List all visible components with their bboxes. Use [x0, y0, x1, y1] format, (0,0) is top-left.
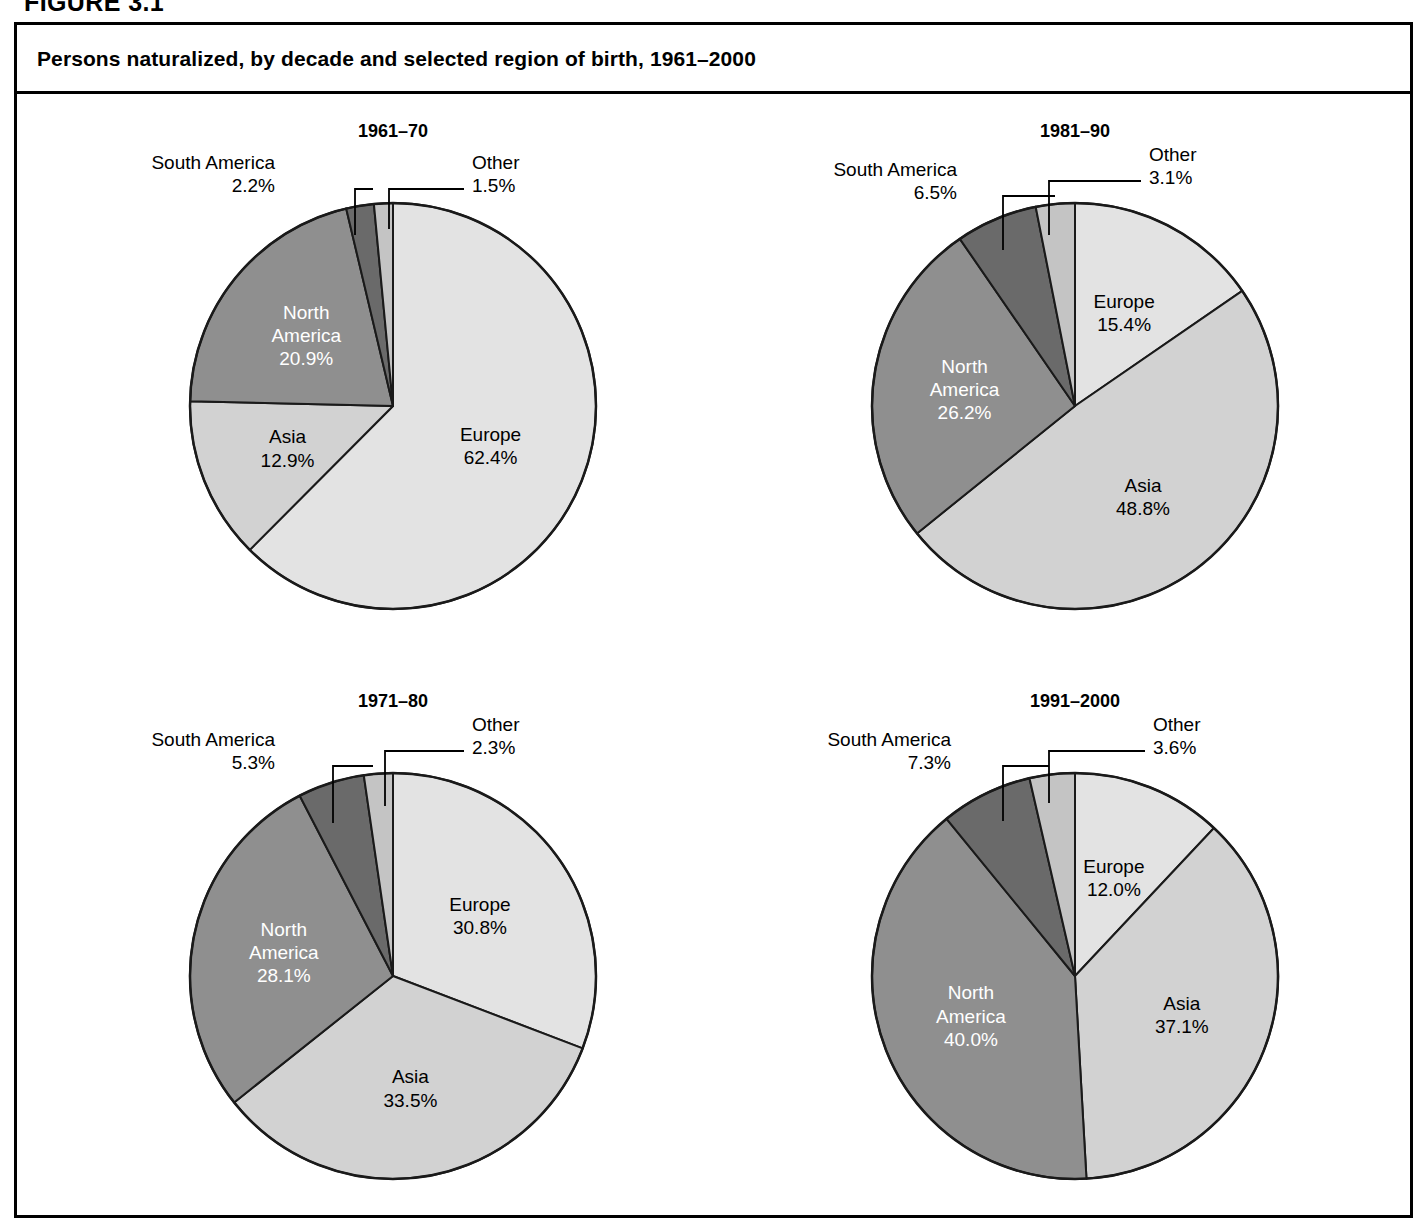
pie-slice-label-north-america: NorthAmerica40.0%: [936, 982, 1006, 1052]
pie-slice-label-name: Europe: [1083, 855, 1144, 878]
other-leader-line: [1049, 751, 1145, 803]
pie-slice-label-name: North: [936, 982, 1006, 1005]
south-america-callout: South America7.3%: [761, 728, 951, 774]
pie-slice-label-asia: Asia37.1%: [1155, 992, 1209, 1038]
figure-label: FIGURE 3.1: [24, 0, 164, 17]
pie-slice-south-america: [947, 778, 1075, 976]
pie-panel: 1991–2000South America7.3%Other3.6%Europ…: [17, 25, 1410, 1215]
south-america-callout-name: South America: [761, 728, 951, 751]
pie-slice-other: [1029, 773, 1075, 976]
pie-panel-title: 1991–2000: [1030, 691, 1120, 712]
south-america-callout-value: 7.3%: [761, 751, 951, 774]
pie-rim: [872, 773, 1278, 1179]
other-callout-value: 3.6%: [1153, 736, 1201, 759]
pie-slice-label-value: 12.0%: [1083, 878, 1144, 901]
pie-slice-label-name: Asia: [1155, 992, 1209, 1015]
pie-slice-label-value: 37.1%: [1155, 1015, 1209, 1038]
other-callout: Other3.6%: [1153, 713, 1201, 759]
south-america-leader-line: [1003, 766, 1049, 821]
pie-slice-label-europe: Europe12.0%: [1083, 855, 1144, 901]
pie-slice-label-name: America: [936, 1005, 1006, 1028]
other-callout-name: Other: [1153, 713, 1201, 736]
pie-slice-label-value: 40.0%: [936, 1028, 1006, 1051]
pie-chart: [17, 25, 1410, 1221]
figure-box: Persons naturalized, by decade and selec…: [14, 22, 1413, 1218]
